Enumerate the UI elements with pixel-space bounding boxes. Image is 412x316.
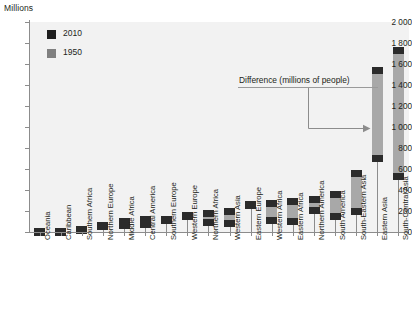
difference-annotation-underline bbox=[238, 87, 378, 88]
x-axis-tick bbox=[124, 232, 125, 236]
legend-label-1950: 1950 bbox=[63, 47, 82, 57]
x-axis-tick bbox=[356, 232, 357, 236]
bar-stem bbox=[314, 214, 315, 232]
bar-stem bbox=[272, 224, 273, 232]
y-axis-tick-label: 1 600 bbox=[388, 60, 412, 69]
y-axis-tick bbox=[25, 232, 29, 233]
x-axis-tick bbox=[272, 232, 273, 236]
x-axis-tick bbox=[40, 232, 41, 236]
x-axis-label-oceania: Oceania bbox=[43, 212, 52, 240]
y-axis-tick-label: 1 200 bbox=[388, 102, 412, 111]
x-axis-tick bbox=[145, 232, 146, 236]
bar-eastern-asia bbox=[372, 67, 383, 162]
y-axis-tick bbox=[25, 22, 29, 23]
y-axis-tick bbox=[25, 190, 29, 191]
x-axis-label-caribbean: Caribbean bbox=[64, 205, 73, 240]
x-axis-tick bbox=[314, 232, 315, 236]
y-axis-tick bbox=[25, 211, 29, 212]
bar-stem bbox=[377, 162, 378, 232]
y-axis-tick-label: 1 400 bbox=[388, 81, 412, 90]
x-axis-tick bbox=[335, 232, 336, 236]
x-axis-label-south-america: South America bbox=[338, 190, 347, 240]
y-axis-line bbox=[29, 20, 30, 233]
x-axis-tick bbox=[251, 232, 252, 236]
legend-swatch-2010-icon bbox=[47, 30, 56, 39]
y-axis-tick-label: 2 000 bbox=[388, 18, 412, 27]
x-axis-tick bbox=[103, 232, 104, 236]
x-axis-label-eastern-asia: Eastern Asia bbox=[380, 197, 389, 240]
x-axis-label-northern-america: Northern America bbox=[317, 181, 326, 240]
bar-cap-2010 bbox=[393, 47, 404, 54]
x-axis-tick bbox=[398, 232, 399, 236]
difference-annotation-label: Difference (millions of people) bbox=[239, 75, 350, 85]
bar-stem bbox=[251, 209, 252, 232]
x-axis-label-south-central-asia: South-Central Asia bbox=[401, 176, 410, 240]
x-axis-label-middle-africa: Middle Africa bbox=[127, 196, 136, 240]
x-axis-label-western-europe: Western Europe bbox=[190, 185, 199, 240]
y-axis-tick bbox=[25, 43, 29, 44]
x-axis-label-northern-europe: Northern Europe bbox=[106, 184, 115, 240]
x-axis-label-eastern-europe: Eastern Europe bbox=[254, 187, 263, 240]
y-axis-tick bbox=[25, 85, 29, 86]
x-axis-label-south-eastern-asia: South-Eastern Asia bbox=[359, 175, 368, 240]
bar-stem bbox=[356, 215, 357, 232]
x-axis-tick bbox=[293, 232, 294, 236]
x-axis-label-eastern-africa: Eastern Africa bbox=[296, 192, 305, 240]
x-axis-label-western-africa: Western Africa bbox=[275, 190, 284, 240]
population-difference-chart: Millions 02004006008001 0001 2001 4001 6… bbox=[0, 0, 412, 316]
x-axis-tick bbox=[166, 232, 167, 236]
legend-label-2010: 2010 bbox=[63, 28, 82, 38]
legend-swatch-1950-icon bbox=[47, 49, 56, 58]
y-axis-tick bbox=[25, 106, 29, 107]
y-axis-unit-label: Millions bbox=[4, 3, 33, 13]
x-axis-tick bbox=[61, 232, 62, 236]
y-axis-tick-label: 1 800 bbox=[388, 39, 412, 48]
x-axis-label-central-america: Central America bbox=[148, 186, 157, 240]
x-axis-label-southern-africa: Southern Africa bbox=[85, 188, 94, 240]
bar-cap-1950 bbox=[372, 155, 383, 162]
y-axis-tick-label: 1 000 bbox=[388, 123, 412, 132]
y-axis-tick bbox=[25, 64, 29, 65]
x-axis-label-western-asia: Western Asia bbox=[233, 195, 242, 240]
x-axis-tick bbox=[82, 232, 83, 236]
x-axis-label-southern-europe: Southern Europe bbox=[169, 182, 178, 240]
bar-stem bbox=[335, 220, 336, 232]
x-axis-tick bbox=[230, 232, 231, 236]
x-axis-tick bbox=[377, 232, 378, 236]
bar-cap-2010 bbox=[372, 67, 383, 74]
y-axis-tick-label: 600 bbox=[388, 165, 412, 174]
x-axis-tick bbox=[208, 232, 209, 236]
y-axis-tick bbox=[25, 169, 29, 170]
x-axis-tick bbox=[187, 232, 188, 236]
y-axis-tick bbox=[25, 148, 29, 149]
y-axis-tick bbox=[25, 127, 29, 128]
y-axis-tick-label: 800 bbox=[388, 144, 412, 153]
bar-stem bbox=[293, 225, 294, 232]
x-axis-label-northern-africa: Northern Africa bbox=[211, 189, 220, 240]
